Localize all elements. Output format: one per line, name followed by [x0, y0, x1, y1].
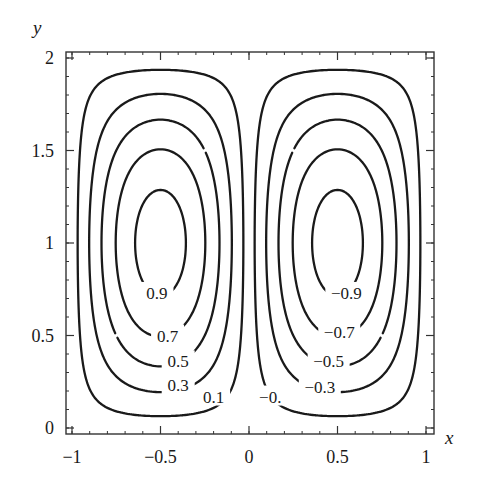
contour-line	[312, 190, 363, 296]
x-tick-label: 0	[245, 447, 254, 467]
contour-label: 0.9	[146, 284, 167, 303]
y-tick-label: 0	[45, 418, 54, 438]
y-tick-label: 0.5	[32, 326, 55, 346]
x-tick-label: 0.5	[326, 447, 349, 467]
contour-line	[135, 190, 186, 296]
contour-label: 0.5	[168, 352, 189, 371]
x-tick-label: 1	[422, 447, 431, 467]
contour-label: 0.3	[168, 376, 189, 395]
contour-label: −0.	[259, 388, 281, 407]
plot-frame	[66, 52, 434, 434]
contour-label: −0.5	[313, 352, 344, 371]
y-tick-label: 1.5	[32, 141, 55, 161]
contour-line	[266, 94, 409, 392]
y-axis-label: y	[31, 17, 42, 38]
contour-label: −0.9	[331, 284, 362, 303]
contour-label: −0.3	[304, 378, 335, 397]
contour-label: 0.1	[203, 388, 224, 407]
contour-label: 0.7	[157, 327, 179, 346]
contour-plot: 0.90.70.50.30.1−0.−0.3−0.5−0.7−0.9 −1−0.…	[0, 0, 480, 494]
minor-ticks	[66, 52, 434, 434]
x-axis-ticks: −1−0.500.51	[62, 52, 430, 467]
contour-label: −0.7	[324, 323, 355, 342]
x-axis-label: x	[444, 427, 454, 448]
contour-line	[116, 149, 206, 336]
y-tick-label: 2	[45, 48, 54, 68]
contour-line	[89, 94, 232, 392]
y-tick-label: 1	[45, 233, 54, 253]
x-tick-label: −0.5	[144, 447, 177, 467]
contour-lines	[78, 70, 421, 416]
x-tick-label: −1	[62, 447, 81, 467]
contour-line	[293, 149, 383, 336]
